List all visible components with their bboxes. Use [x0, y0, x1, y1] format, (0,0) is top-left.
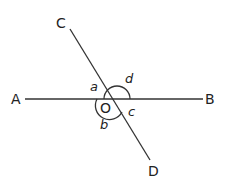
label-c-point: C — [56, 15, 66, 31]
label-angle-a: a — [90, 79, 98, 94]
label-o-point: O — [100, 100, 111, 116]
line-cd — [70, 29, 150, 160]
arc-angle-d — [104, 86, 130, 99]
label-angle-c: c — [128, 104, 135, 119]
label-angle-b: b — [100, 117, 108, 132]
label-a-point: A — [11, 91, 21, 107]
label-angle-d: d — [125, 71, 134, 86]
label-d-point: D — [148, 163, 159, 179]
angle-diagram: A B C D O a d c b — [0, 0, 225, 188]
label-b-point: B — [205, 91, 215, 107]
